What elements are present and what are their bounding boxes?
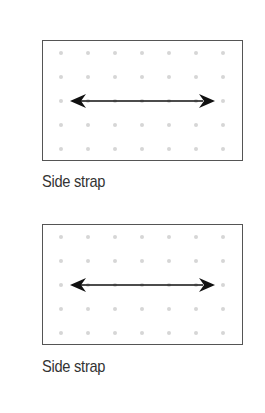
double-arrow-icon <box>70 94 215 108</box>
dot-grid-icon <box>43 225 244 346</box>
dot-grid-icon <box>43 41 244 162</box>
side-strap-diagram-2 <box>42 224 243 345</box>
side-strap-diagram-1 <box>42 40 243 161</box>
figure-caption: Side strap <box>42 357 105 377</box>
double-arrow-icon <box>70 278 215 292</box>
figure-caption: Side strap <box>42 172 105 192</box>
